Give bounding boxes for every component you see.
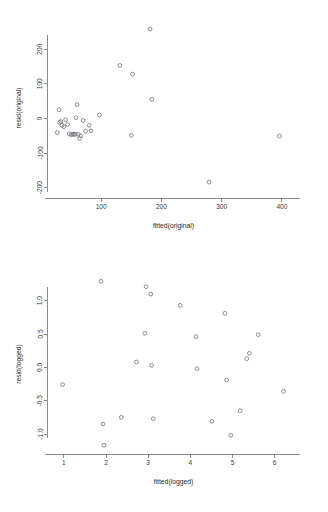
data-point <box>101 422 105 426</box>
data-point <box>149 292 153 296</box>
data-point <box>150 363 154 367</box>
scatter-plot-logged: 1234561.00.50.0-0.5-1.0fitted(logged)res… <box>0 256 328 512</box>
data-point <box>278 134 282 138</box>
scatter-plot-original: 1002003004002001000-100-200fitted(origin… <box>0 0 328 256</box>
x-axis-title: fitted(logged) <box>154 478 194 486</box>
data-point <box>207 180 211 184</box>
y-tick-label-1: 100 <box>37 78 44 89</box>
data-point <box>129 133 133 137</box>
data-point <box>118 64 122 68</box>
data-point <box>151 417 155 421</box>
y-tick-label-3: -100 <box>37 146 44 160</box>
x-axis-title: fitted(original) <box>153 222 194 230</box>
data-point <box>81 119 85 123</box>
y-tick-label-2: 0.0 <box>37 362 44 371</box>
x-tick-label-3: 400 <box>276 203 287 210</box>
data-point <box>134 360 138 364</box>
y-tick-label-2: 0 <box>37 116 44 120</box>
data-point <box>282 389 286 393</box>
data-point <box>148 27 152 31</box>
data-point <box>245 357 249 361</box>
data-point <box>195 367 199 371</box>
y-tick-label-4: -200 <box>37 181 44 195</box>
data-point <box>256 333 260 337</box>
data-point <box>225 378 229 382</box>
data-point <box>102 443 106 447</box>
x-tick-label-0: 1 <box>62 459 66 466</box>
y-axis-title: resid(logged) <box>15 344 23 384</box>
x-tick-label-4: 5 <box>231 459 235 466</box>
data-point <box>75 103 79 107</box>
x-tick-label-1: 2 <box>104 459 108 466</box>
y-tick-label-1: 0.5 <box>37 329 44 338</box>
x-tick-label-1: 200 <box>156 203 167 210</box>
y-tick-label-4: -1.0 <box>37 428 44 440</box>
scatter-panel-logged: 1234561.00.50.0-0.5-1.0fitted(logged)res… <box>0 256 328 512</box>
data-point <box>210 419 214 423</box>
data-point <box>84 129 88 133</box>
x-tick-label-2: 300 <box>216 203 227 210</box>
data-point <box>99 279 103 283</box>
data-point <box>248 351 252 355</box>
data-point <box>229 433 233 437</box>
data-point <box>119 415 123 419</box>
data-point <box>143 331 147 335</box>
data-point <box>61 383 65 387</box>
y-tick-label-3: -0.5 <box>37 395 44 407</box>
data-point <box>64 118 68 122</box>
data-point <box>150 97 154 101</box>
data-point <box>98 113 102 117</box>
y-tick-label-0: 200 <box>37 43 44 54</box>
figure-page: 1002003004002001000-100-200fitted(origin… <box>0 0 328 512</box>
x-tick-label-2: 3 <box>146 459 150 466</box>
data-point <box>131 72 135 76</box>
data-point <box>55 131 59 135</box>
y-axis-title: resid(original) <box>15 87 23 128</box>
data-point <box>66 123 70 127</box>
x-tick-label-0: 100 <box>96 203 107 210</box>
data-point <box>144 285 148 289</box>
y-tick-label-0: 1.0 <box>37 296 44 305</box>
x-tick-label-5: 6 <box>273 459 277 466</box>
data-point <box>178 303 182 307</box>
data-point <box>223 311 227 315</box>
data-point <box>87 123 91 127</box>
x-tick-label-3: 4 <box>189 459 193 466</box>
data-point <box>238 409 242 413</box>
data-point <box>74 116 78 120</box>
scatter-panel-original: 1002003004002001000-100-200fitted(origin… <box>0 0 328 256</box>
data-point <box>57 108 61 112</box>
data-point <box>89 129 93 133</box>
data-point <box>194 335 198 339</box>
